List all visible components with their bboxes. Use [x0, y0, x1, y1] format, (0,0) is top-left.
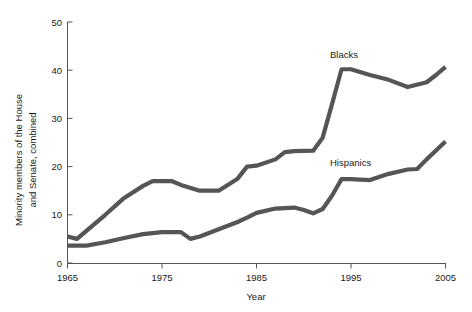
line-chart-svg: 50 40 30 20 10 0 1965 1975 1985 1995 200…	[0, 0, 472, 312]
y-tick-label: 30	[51, 113, 62, 124]
x-tick-label: 1985	[246, 272, 267, 283]
x-tick-label: 1965	[57, 272, 78, 283]
y-tick-label: 50	[51, 17, 62, 28]
chart-background	[0, 0, 472, 312]
x-tick-label: 2005	[435, 272, 456, 283]
y-tick-label: 20	[51, 161, 62, 172]
y-tick-label: 40	[51, 65, 62, 76]
series-label-hispanics: Hispanics	[330, 157, 371, 168]
y-axis-title-line2: and Senate, combined	[27, 112, 38, 207]
y-axis-title-line1: Minority members of the House	[13, 94, 24, 226]
x-axis-title: Year	[246, 291, 265, 302]
chart-figure: 50 40 30 20 10 0 1965 1975 1985 1995 200…	[0, 0, 472, 312]
x-tick-label: 1975	[151, 272, 172, 283]
x-tick-label: 1995	[340, 272, 361, 283]
y-tick-label: 10	[51, 209, 62, 220]
series-label-blacks: Blacks	[330, 49, 358, 60]
y-tick-label: 0	[57, 258, 62, 269]
